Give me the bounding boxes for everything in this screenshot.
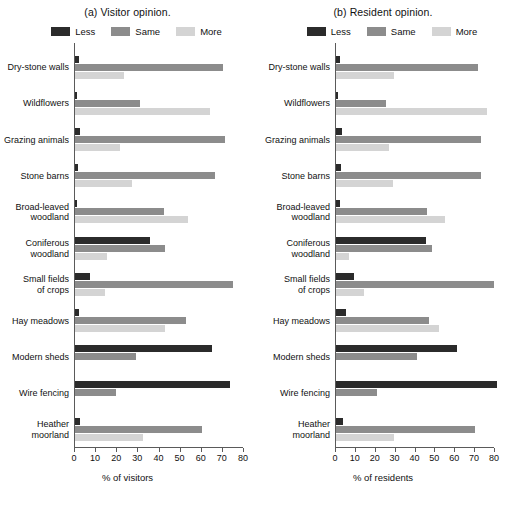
bar-same [75,245,165,252]
bar-same [75,426,202,433]
bar-less [75,200,77,207]
x-axis-tick [95,448,96,452]
x-axis-tick-label: 40 [153,453,163,463]
legend-label-less-b: Less [331,26,351,37]
legend-item-less-b: Less [307,26,351,37]
legend-label-same-b: Same [391,26,416,37]
bar-less [336,381,497,388]
x-axis-tick [355,448,356,452]
category-label: Broad-leaved woodland [256,201,330,222]
legend-label-less: Less [75,26,95,37]
legend-swatch-more [176,27,195,36]
legend-label-more: More [200,26,222,37]
bar-more [336,325,439,332]
bar-less [336,128,342,135]
bar-more [336,289,364,296]
bar-same [75,281,233,288]
x-axis-tick [159,448,160,452]
category-label: Coniferous woodland [256,238,330,259]
bar-more [75,144,120,151]
bar-same [336,426,475,433]
legend-item-same: Same [111,26,160,37]
x-axis-tick [74,448,75,452]
x-axis-tick [335,448,336,452]
x-axis-tick-label: 80 [489,453,499,463]
bar-less [75,418,80,425]
bar-less [75,273,90,280]
bar-less [75,237,150,244]
bar-less [336,56,340,63]
bar-more [336,144,389,151]
x-axis-tick-label: 40 [409,453,419,463]
x-axis-tick [201,448,202,452]
bar-less [75,56,79,63]
legend-label-more-b: More [456,26,478,37]
bar-less [75,92,77,99]
plot-area-resident: 01020304050607080Dry-stone wallsWildflow… [255,43,511,433]
bar-less [336,309,346,316]
legend-swatch-same-b [367,27,386,36]
category-label: Stone barns [256,170,330,181]
x-axis-tick [434,448,435,452]
bar-more [75,289,105,296]
bar-more [75,180,132,187]
bar-more [336,108,487,115]
legend-swatch-less-b [307,27,326,36]
x-axis-tick [415,448,416,452]
x-axis-tick [180,448,181,452]
x-axis-tick-label: 60 [196,453,206,463]
legend-item-same-b: Same [367,26,416,37]
bar-same [336,208,427,215]
category-label: Heather moorland [256,419,330,440]
legend-label-same: Same [135,26,160,37]
figure-container: (a) Visitor opinion. Less Same More 0102… [0,0,511,508]
bar-less [336,200,340,207]
bar-same [75,64,223,71]
category-label: Small fields of crops [1,274,69,295]
panel-a-legend: Less Same More [0,26,255,37]
bar-same [75,389,116,396]
bar-same [336,64,478,71]
x-axis-tick [395,448,396,452]
category-label: Wildflowers [1,98,69,109]
bar-same [75,317,186,324]
bar-same [336,100,386,107]
x-axis-tick-label: 70 [469,453,479,463]
category-label: Stone barns [1,170,69,181]
bar-same [336,172,481,179]
legend-swatch-same [111,27,130,36]
category-label: Wildflowers [256,98,330,109]
bar-less [75,381,230,388]
x-axis-tick-label: 50 [175,453,185,463]
legend-swatch-less [51,27,70,36]
bar-same [336,281,494,288]
bar-same [75,208,164,215]
bar-more [75,253,107,260]
x-axis-tick [474,448,475,452]
bar-more [75,72,124,79]
legend-swatch-more-b [432,27,451,36]
x-axis-tick [375,448,376,452]
x-axis-title-visitor: % of visitors [0,472,255,483]
x-axis-tick [243,448,244,452]
category-label: Grazing animals [1,134,69,145]
category-label: Modern sheds [256,351,330,362]
bar-same [75,100,140,107]
bar-more [336,180,393,187]
x-axis-tick-label: 70 [217,453,227,463]
x-axis-tick [137,448,138,452]
category-label: Broad-leaved woodland [1,201,69,222]
x-axis-tick-label: 0 [332,453,337,463]
bar-less [75,345,212,352]
bar-same [336,389,377,396]
x-axis-tick-label: 50 [429,453,439,463]
x-axis-tick [454,448,455,452]
legend-item-less: Less [51,26,95,37]
bar-less [75,128,80,135]
bar-same [336,353,417,360]
bar-less [75,309,79,316]
category-label: Grazing animals [256,134,330,145]
category-label: Wire fencing [256,388,330,399]
legend-item-more: More [176,26,222,37]
bar-more [336,72,394,79]
